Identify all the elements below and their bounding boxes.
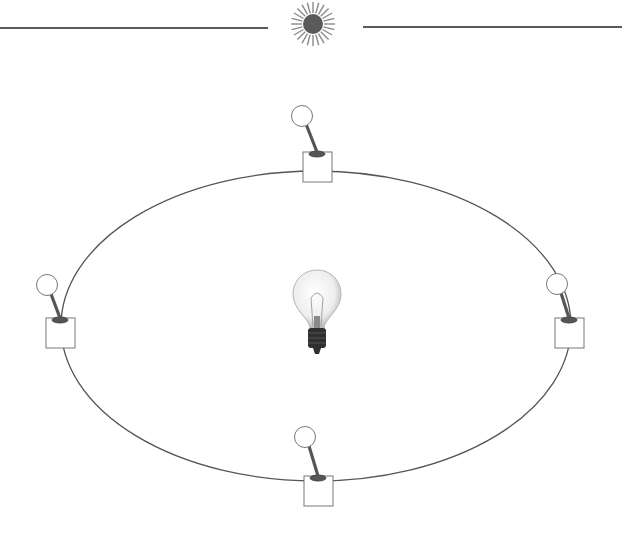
sun-icon <box>291 2 335 46</box>
switch-bottom[interactable] <box>295 427 334 507</box>
switch-right[interactable] <box>547 274 585 349</box>
circuit-diagram <box>0 0 622 534</box>
switch-top[interactable] <box>292 106 333 183</box>
light-bulb-icon <box>293 270 341 354</box>
